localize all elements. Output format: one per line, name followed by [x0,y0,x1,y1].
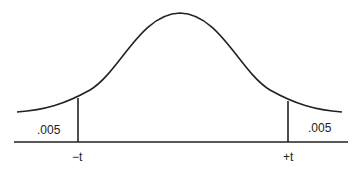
right-critical-label: +t [283,151,293,163]
left-critical-label: −t [72,151,82,163]
right-tail-area-label: .005 [308,122,331,134]
left-tail-area-label: .005 [37,124,60,136]
distribution-diagram [0,0,358,171]
bell-curve [17,13,342,112]
